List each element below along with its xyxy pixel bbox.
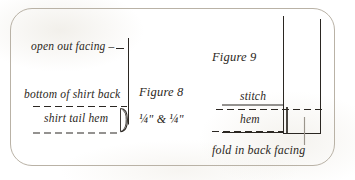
fig8-label-open-out-facing: open out facing – (31, 40, 115, 52)
fig8-label-bottom-of-shirt-back: bottom of shirt back (24, 88, 120, 100)
fig8-rolled-hem-inner-curl (123, 110, 127, 130)
fig9-label-hem: hem (240, 113, 260, 125)
fig8-measurement-label: ¼" & ¼" (139, 112, 184, 127)
fig8-label-shirt-tail-hem: shirt tail hem (44, 112, 108, 124)
fig9-label-fold-in-back-facing: fold in back facing (212, 143, 305, 158)
fig9-label-stitch: stitch (240, 90, 266, 102)
fig8-caption: Figure 8 (139, 85, 184, 100)
fig9-caption: Figure 9 (212, 50, 257, 65)
diagram-page: open out facing – bottom of shirt back s… (0, 0, 355, 180)
fig8-measurement-text: ¼" & ¼" (139, 112, 184, 126)
